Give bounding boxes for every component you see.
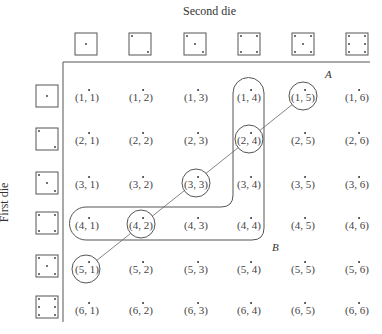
dot-mark [358, 302, 360, 304]
outcome-6-1: (6, 1) [75, 304, 99, 316]
die-face-6-icon [36, 296, 58, 318]
dot-mark [197, 89, 199, 91]
die-face-6-icon [346, 33, 368, 55]
outcome-2-3: (2, 3) [184, 134, 208, 146]
left-dice-faces [36, 85, 58, 318]
outcome-3-5: (3, 5) [291, 178, 315, 190]
outcome-3-2: (3, 2) [129, 178, 153, 190]
event-b-label: B [272, 241, 279, 253]
dot-mark [142, 302, 144, 304]
outcome-2-1: (2, 1) [75, 134, 99, 146]
dot-mark [142, 89, 144, 91]
dot-mark [88, 132, 90, 134]
outcome-5-2: (5, 2) [129, 263, 153, 275]
dot-mark [304, 261, 306, 263]
dot-mark [250, 176, 252, 178]
die-face-1-icon [75, 33, 97, 55]
dot-mark [142, 132, 144, 134]
dot-mark [304, 302, 306, 304]
dot-mark [197, 302, 199, 304]
outcome-6-3: (6, 3) [184, 304, 208, 316]
dot-mark [88, 89, 90, 91]
outcome-1-1: (1, 1) [75, 91, 99, 103]
dot-mark [358, 132, 360, 134]
top-dice-faces [75, 33, 368, 55]
dot-mark [358, 217, 360, 219]
outcome-3-3: (3, 3) [184, 178, 208, 190]
outcome-2-6: (2, 6) [345, 134, 369, 146]
dot-mark [142, 217, 144, 219]
outcome-1-6: (1, 6) [345, 91, 369, 103]
event-a-label: A [325, 68, 332, 80]
outcome-1-2: (1, 2) [129, 91, 153, 103]
outcome-5-6: (5, 6) [345, 263, 369, 275]
outcome-4-2: (4, 2) [129, 219, 153, 231]
dot-mark [88, 176, 90, 178]
outcome-1-3: (1, 3) [184, 91, 208, 103]
die-face-4-icon [36, 212, 58, 234]
dot-mark [88, 217, 90, 219]
outcome-4-1: (4, 1) [75, 219, 99, 231]
dot-mark [250, 261, 252, 263]
outcome-2-4: (2, 4) [237, 134, 261, 146]
die-face-4-icon [238, 33, 260, 55]
die-face-3-icon [184, 33, 206, 55]
dot-mark [197, 132, 199, 134]
die-face-2-icon [129, 33, 151, 55]
dot-mark [88, 302, 90, 304]
outcome-6-5: (6, 5) [291, 304, 315, 316]
dot-mark [358, 89, 360, 91]
outcome-3-4: (3, 4) [237, 178, 261, 190]
dot-mark [358, 261, 360, 263]
dot-mark [250, 132, 252, 134]
first-die-label: First die [0, 183, 12, 223]
dot-mark [250, 89, 252, 91]
dot-mark [358, 176, 360, 178]
outcome-5-3: (5, 3) [184, 263, 208, 275]
dot-mark [88, 261, 90, 263]
outcome-6-2: (6, 2) [129, 304, 153, 316]
die-face-5-icon [36, 255, 58, 277]
dot-mark [197, 176, 199, 178]
outcome-4-3: (4, 3) [184, 219, 208, 231]
dot-mark [250, 217, 252, 219]
outcome-6-4: (6, 4) [237, 304, 261, 316]
outcome-3-1: (3, 1) [75, 178, 99, 190]
dot-mark [197, 217, 199, 219]
die-face-1-icon [36, 85, 58, 107]
diagram-canvas [0, 0, 382, 334]
outcome-4-4: (4, 4) [237, 219, 261, 231]
dot-mark [304, 132, 306, 134]
outcome-5-5: (5, 5) [291, 263, 315, 275]
second-die-label: Second die [183, 4, 236, 19]
die-face-2-icon [36, 128, 58, 150]
outcome-5-1: (5, 1) [75, 263, 99, 275]
outcome-4-5: (4, 5) [291, 219, 315, 231]
outcome-1-5: (1, 5) [291, 91, 315, 103]
dot-mark [142, 176, 144, 178]
dot-mark [250, 302, 252, 304]
dot-mark [304, 176, 306, 178]
outcome-6-6: (6, 6) [345, 304, 369, 316]
dot-mark [197, 261, 199, 263]
outcome-2-2: (2, 2) [129, 134, 153, 146]
outcome-1-4: (1, 4) [237, 91, 261, 103]
die-face-3-icon [36, 172, 58, 194]
outcome-4-6: (4, 6) [345, 219, 369, 231]
outcome-5-4: (5, 4) [237, 263, 261, 275]
outcome-3-6: (3, 6) [345, 178, 369, 190]
die-face-5-icon [292, 33, 314, 55]
outcome-2-5: (2, 5) [291, 134, 315, 146]
dot-mark [304, 217, 306, 219]
dot-mark [142, 261, 144, 263]
dot-mark [304, 89, 306, 91]
